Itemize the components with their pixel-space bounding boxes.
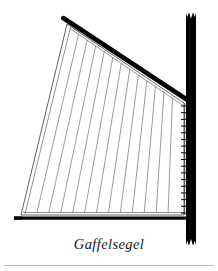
boom-inboard-taper (14, 217, 22, 220)
mast-spar (186, 13, 196, 245)
gaff-peak-tip (61, 16, 65, 20)
figure-root: Gaffelsegel (0, 0, 218, 271)
boom-spar (14, 217, 191, 220)
mast-group (186, 13, 196, 245)
bottom-divider (4, 265, 214, 266)
figure-caption: Gaffelsegel (0, 236, 218, 253)
boom-group (14, 217, 191, 220)
gaffelsegel-diagram (0, 0, 218, 271)
